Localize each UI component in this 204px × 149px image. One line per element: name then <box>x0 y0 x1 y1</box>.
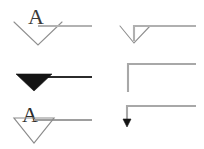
open-v-large-glyph <box>0 0 102 50</box>
elbow-line <box>127 106 196 122</box>
sample-open-v-large-left[interactable]: A <box>0 0 102 50</box>
elbow-line <box>128 64 196 92</box>
sample-small-solid-arrow-elbow-right[interactable]: A <box>102 98 204 149</box>
sample-open-v-elbow-right[interactable]: A <box>102 0 204 50</box>
sample-no-arrowhead-elbow-right[interactable]: A <box>102 50 204 98</box>
plain-elbow-glyph <box>102 50 204 98</box>
solid-triangle-arrowhead-icon <box>16 74 52 91</box>
hollow-triangle-glyph <box>0 98 102 149</box>
sample-hollow-triangle-left[interactable]: A <box>0 98 102 149</box>
solid-triangle-glyph <box>0 50 102 98</box>
sample-label-a: A <box>28 6 44 28</box>
hollow-triangle-arrowhead-icon <box>14 118 54 143</box>
small-solid-arrow-elbow-glyph <box>102 98 204 149</box>
small-solid-arrowhead-icon <box>123 119 131 127</box>
open-v-elbow-glyph <box>102 0 204 50</box>
arrowhead-style-canvas: A A A A A A <box>0 0 204 149</box>
sample-solid-triangle-left[interactable]: A <box>0 50 102 98</box>
